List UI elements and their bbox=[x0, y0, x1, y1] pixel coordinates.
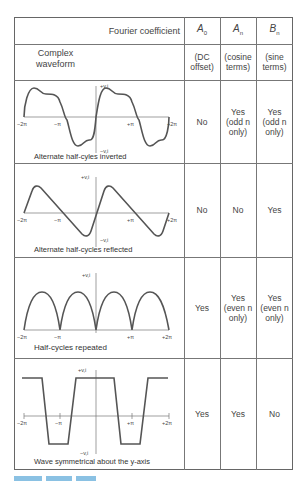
svg-text:+π: +π bbox=[127, 334, 134, 340]
bn-value: Yes bbox=[256, 163, 293, 257]
svg-text:−2π: −2π bbox=[17, 217, 27, 223]
svg-text:+2π: +2π bbox=[167, 121, 177, 127]
waveform-caption: Alternate half-cycles reflected bbox=[34, 245, 132, 254]
bn-value: No bbox=[256, 358, 293, 470]
svg-text:−2π: −2π bbox=[17, 420, 27, 426]
waveform-graph: +v,i −v,i −2π −π +π +2π bbox=[14, 80, 184, 163]
svg-text:+v,i: +v,i bbox=[82, 272, 90, 278]
svg-text:−π: −π bbox=[54, 217, 61, 223]
waveform-plot-symmetrical: +v,i −v,i −2π −π +π +2π Wave symmetrical… bbox=[14, 358, 184, 470]
svg-text:+π: +π bbox=[127, 420, 134, 426]
svg-text:−2π: −2π bbox=[17, 121, 27, 127]
a0-value: No bbox=[184, 80, 220, 163]
fourier-coefficient-label: Fourier coefficient bbox=[109, 17, 180, 44]
a0-value: Yes bbox=[184, 257, 220, 358]
waveform-plot-reflected: +v,i −v,i −2π −π +π +2π Alternate half-c… bbox=[14, 163, 184, 257]
header-bn-desc: (sineterms) bbox=[256, 44, 293, 80]
waveform-graph: +v,i −v,i −2π −π +π +2π bbox=[14, 163, 184, 257]
complex-waveform-label: Complex waveform bbox=[36, 48, 75, 70]
a0-value: No bbox=[184, 163, 220, 257]
svg-text:+v,i: +v,i bbox=[78, 367, 86, 373]
svg-text:−π: −π bbox=[54, 121, 61, 127]
header-bn: Bn bbox=[256, 17, 293, 44]
svg-text:+π: +π bbox=[127, 217, 134, 223]
header-a0: A0 bbox=[184, 17, 220, 44]
waveform-caption: Wave symmetrical about the y-axis bbox=[34, 457, 150, 466]
svg-text:+2π: +2π bbox=[167, 217, 177, 223]
an-value: Yes(odd nonly) bbox=[220, 80, 256, 163]
waveform-graph: +v,i −v,i −2π −π +π +2π bbox=[14, 358, 184, 470]
a0-value: Yes bbox=[184, 358, 220, 470]
an-value: Yes(even nonly) bbox=[220, 257, 256, 358]
bn-value: Yes(odd nonly) bbox=[256, 80, 293, 163]
svg-text:+v,i: +v,i bbox=[81, 174, 89, 180]
waveform-plot-repeated: +v,i −2π −π +π +2π Half-cycles repeated bbox=[14, 257, 184, 358]
svg-text:+v,i: +v,i bbox=[100, 83, 108, 89]
an-value: No bbox=[220, 163, 256, 257]
an-value: Yes bbox=[220, 358, 256, 470]
svg-text:+2π: +2π bbox=[162, 334, 172, 340]
header-an: An bbox=[220, 17, 256, 44]
svg-text:−v,i: −v,i bbox=[80, 450, 88, 456]
waveform-caption: Alternate half-cyles inverted bbox=[34, 152, 127, 161]
svg-text:+π: +π bbox=[127, 121, 134, 127]
waveform-caption: Half-cycles repeated bbox=[34, 343, 107, 352]
header-a0-desc: (DCoffset) bbox=[184, 44, 220, 80]
svg-text:−v,i: −v,i bbox=[100, 237, 108, 243]
svg-text:−2π: −2π bbox=[17, 334, 27, 340]
figure-caption bbox=[14, 474, 96, 482]
header-an-desc: (cosineterms) bbox=[220, 44, 256, 80]
bn-value: Yes(even nonly) bbox=[256, 257, 293, 358]
svg-text:+2π: +2π bbox=[162, 420, 172, 426]
svg-text:−π: −π bbox=[54, 334, 61, 340]
waveform-plot-inverted: +v,i −v,i −2π −π +π +2π Alternate half-c… bbox=[14, 80, 184, 163]
svg-text:−π: −π bbox=[55, 420, 62, 426]
